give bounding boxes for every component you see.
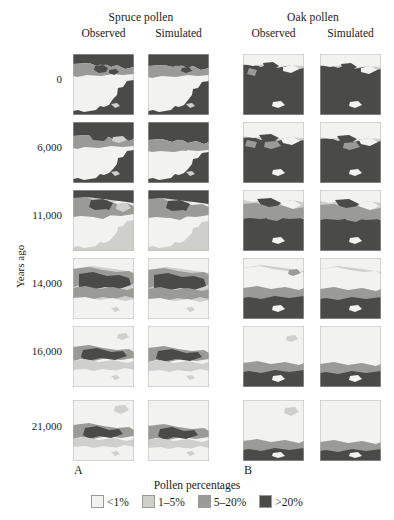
panel-oak-observed-6000	[243, 122, 304, 183]
panel-oak-simulated-21000	[320, 400, 381, 461]
legend-item-gt20: >20%	[259, 495, 303, 508]
sub-label-b: B	[244, 463, 252, 478]
panel-spruce-observed-21000	[73, 400, 134, 461]
group-title-oak: Oak pollen	[243, 11, 383, 23]
column-header-oak-observed: Observed	[243, 27, 304, 39]
panel-oak-simulated-6000	[320, 122, 381, 183]
panel-spruce-simulated-11000	[148, 190, 209, 251]
panel-oak-simulated-11000	[320, 190, 381, 251]
row-label-0: 0	[0, 73, 62, 85]
panel-spruce-observed-16000	[73, 326, 134, 387]
panel-spruce-observed-11000	[73, 190, 134, 251]
legend-item-1to5: 1–5%	[142, 495, 185, 508]
legend-item-5to20: 5–20%	[198, 495, 247, 508]
column-header-oak-simulated: Simulated	[320, 27, 381, 39]
panel-oak-observed-21000	[243, 400, 304, 461]
column-header-spruce-observed: Observed	[73, 27, 134, 39]
row-label-21000: 21,000	[0, 420, 62, 432]
legend-swatch-5to20	[198, 495, 211, 508]
panel-spruce-observed-14000	[73, 258, 134, 319]
column-header-spruce-simulated: Simulated	[148, 27, 209, 39]
legend-label-gt20: >20%	[275, 496, 303, 508]
row-label-6000: 6,000	[0, 141, 62, 153]
panel-spruce-simulated-0	[148, 54, 209, 115]
row-label-14000: 14,000	[0, 277, 62, 289]
panel-oak-observed-0	[243, 54, 304, 115]
sub-label-a: A	[74, 463, 83, 478]
panel-oak-simulated-0	[320, 54, 381, 115]
legend-title: Pollen percentages	[0, 479, 394, 491]
legend-swatch-lt1	[91, 495, 104, 508]
panel-spruce-simulated-14000	[148, 258, 209, 319]
panel-oak-simulated-16000	[320, 326, 381, 387]
legend-swatch-gt20	[259, 495, 272, 508]
panel-spruce-observed-0	[73, 54, 134, 115]
row-label-16000: 16,000	[0, 345, 62, 357]
panel-oak-observed-11000	[243, 190, 304, 251]
group-title-spruce: Spruce pollen	[73, 11, 209, 23]
panel-oak-simulated-14000	[320, 258, 381, 319]
panel-spruce-simulated-21000	[148, 400, 209, 461]
panel-oak-observed-16000	[243, 326, 304, 387]
legend: <1% 1–5% 5–20% >20%	[0, 495, 394, 508]
legend-label-lt1: <1%	[107, 496, 129, 508]
row-label-11000: 11,000	[0, 209, 62, 221]
pollen-figure: Spruce pollen Oak pollen Observed Simula…	[0, 0, 394, 520]
legend-item-lt1: <1%	[91, 495, 129, 508]
panel-spruce-observed-6000	[73, 122, 134, 183]
legend-label-1to5: 1–5%	[158, 496, 185, 508]
panel-spruce-simulated-6000	[148, 122, 209, 183]
panel-spruce-simulated-16000	[148, 326, 209, 387]
panel-oak-observed-14000	[243, 258, 304, 319]
legend-swatch-1to5	[142, 495, 155, 508]
legend-label-5to20: 5–20%	[214, 496, 247, 508]
